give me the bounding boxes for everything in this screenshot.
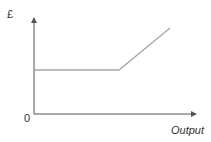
chart-canvas xyxy=(0,0,211,142)
x-axis-label: Output xyxy=(171,125,204,136)
origin-label: 0 xyxy=(24,113,30,124)
y-axis-label: £ xyxy=(7,9,13,20)
cost-line xyxy=(34,28,170,70)
